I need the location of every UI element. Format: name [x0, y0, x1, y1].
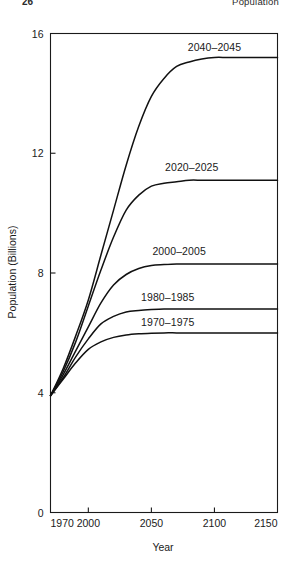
y-tick-label: 16: [32, 28, 44, 40]
y-tick-label: 4: [38, 387, 44, 399]
curve-label-1980-1985: 1980–1985: [141, 291, 195, 303]
y-tick-label: 12: [32, 147, 44, 159]
curve-label-2000-2005: 2000–2005: [152, 245, 206, 257]
y-tick-label: 8: [38, 267, 44, 279]
projection-curve-2020-2025: [51, 180, 278, 396]
x-axis-title: Year: [152, 541, 174, 553]
projection-curve-1970-1975: [51, 333, 278, 396]
y-axis-tick-labels: 0481216: [32, 28, 44, 519]
population-projection-figure: 19702000205021002150 0481216 2040–204520…: [0, 0, 293, 568]
x-tick-label: 2050: [140, 517, 164, 529]
y-tick-label: 0: [38, 507, 44, 519]
x-axis-tick-labels: 19702000205021002150: [51, 517, 278, 529]
x-tick-label: 1970: [51, 517, 75, 529]
x-tick-label: 2100: [203, 517, 227, 529]
x-tick-label: 2150: [254, 517, 278, 529]
curve-label-2040-2045: 2040–2045: [188, 41, 242, 53]
projection-curve-2000-2005: [51, 264, 278, 396]
x-tick-label: 2000: [77, 517, 101, 529]
y-axis-title: Population (Billions): [6, 226, 18, 319]
projection-curves: [51, 57, 278, 395]
curve-label-2020-2025: 2020–2025: [165, 161, 219, 173]
curve-label-1970-1975: 1970–1975: [141, 316, 195, 328]
plot-frame: [51, 34, 278, 513]
population-line-chart: 19702000205021002150 0481216 2040–204520…: [0, 0, 293, 568]
